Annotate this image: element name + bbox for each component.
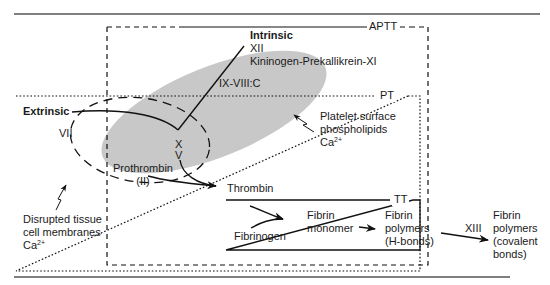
platelet-line-1: Platelet surface (320, 110, 396, 123)
factor-xiii-label: XIII (465, 222, 482, 235)
complex-ix-viii-label: IX-VIII:C (219, 77, 261, 90)
tissue-calcium: Ca2+ (23, 239, 102, 252)
prothrombin-line-1: Prothrombin (111, 162, 175, 175)
platelet-lightning-icon (298, 118, 314, 132)
fibrin-covalent-polymers-label: Fibrin polymers (covalent bonds) (493, 209, 538, 261)
intrinsic-factor-xii: XII (250, 42, 263, 55)
tissue-line-2: cell membranes (23, 226, 102, 239)
tissue-annotation: Disrupted tissue cell membranes Ca2+ (23, 213, 102, 252)
tissue-line-1: Disrupted tissue (23, 213, 102, 226)
tt-label: TT (392, 193, 409, 206)
prothrombin-line-2: (II) (111, 175, 175, 188)
platelet-annotation: Platelet surface phospholipids Ca2+ (320, 110, 396, 149)
intrinsic-title: Intrinsic (250, 29, 293, 42)
pt-label: PT (378, 89, 396, 102)
thrombin-label: Thrombin (227, 182, 273, 195)
platelet-calcium: Ca2+ (320, 136, 396, 149)
intrinsic-kininogen: Kininogen-Prekallikrein-XI (250, 55, 377, 68)
prothrombin-label: Prothrombin (II) (111, 162, 175, 188)
factor-vii-label: VII (59, 127, 72, 140)
fibrin-hbond-polymers-label: Fibrin polymers (H-bonds) (385, 209, 434, 248)
fibrinogen-arrow-bottom (251, 219, 283, 228)
fibrinogen-label: Fibrinogen (234, 230, 286, 243)
platelet-line-2: phospholipids (320, 123, 396, 136)
aptt-label: APTT (367, 20, 399, 33)
extrinsic-title: Extrinsic (23, 105, 69, 118)
fibrinogen-arrow-top (250, 206, 283, 219)
factor-v-label: V (175, 149, 182, 162)
fibrin-monomer-label: Fibrin monomer (307, 209, 353, 235)
tissue-lightning-icon (56, 185, 66, 210)
monomer-arrow (359, 227, 375, 229)
